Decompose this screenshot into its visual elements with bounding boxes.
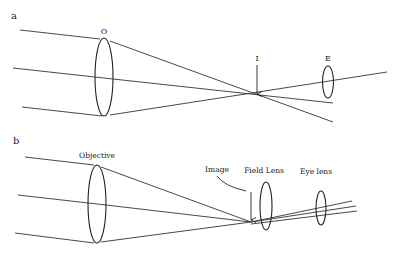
- ray-b-out-3: [251, 211, 357, 224]
- ray-a-middle-incoming: [13, 68, 113, 79]
- panel-a: a O I E: [11, 10, 387, 122]
- ray-a-bottom-converging: [110, 72, 387, 115]
- image-leader-b: [217, 176, 246, 191]
- image-label-a: I: [255, 54, 258, 63]
- image-label-b: Image: [205, 165, 229, 174]
- ray-a-bottom-incoming: [22, 107, 102, 116]
- ray-a-top-incoming: [20, 30, 100, 39]
- ray-b-bottom-converging: [101, 222, 251, 242]
- panel-b: b Objective Image Field Lens Eye lens: [13, 135, 357, 243]
- telescope-ray-diagram: a O I E b Objective Image: [0, 0, 400, 254]
- eyepiece-lens-a-label: E: [325, 54, 331, 63]
- objective-lens-b-label: Objective: [79, 151, 116, 160]
- ray-b-middle-converging: [106, 205, 251, 222]
- panel-a-label: a: [11, 10, 17, 21]
- field-lens-label: Field Lens: [244, 166, 284, 175]
- ray-b-out-2: [251, 206, 356, 222]
- ray-a-middle-converging: [113, 79, 333, 103]
- panel-b-label: b: [13, 135, 19, 146]
- eye-lens-label: Eye lens: [300, 167, 332, 176]
- objective-lens-a-label: O: [101, 27, 108, 36]
- ray-b-out-1: [251, 201, 352, 222]
- ray-b-top-converging: [101, 167, 251, 222]
- ray-b-middle-incoming: [18, 195, 106, 205]
- ray-b-bottom-incoming: [15, 233, 94, 243]
